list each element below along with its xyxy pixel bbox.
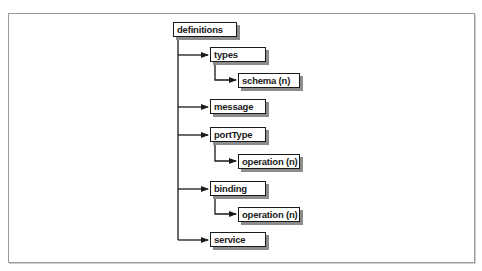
node-porttype-operation: operation (n) (238, 154, 300, 169)
arrow-porttype-operation (215, 143, 236, 161)
node-types: types (210, 47, 266, 62)
node-binding: binding (210, 181, 266, 196)
node-service: service (210, 232, 266, 247)
arrow-schema (215, 62, 236, 80)
node-porttype: portType (210, 127, 266, 142)
node-binding-operation: operation (n) (238, 207, 300, 222)
node-schema: schema (n) (238, 73, 300, 88)
arrow-binding-operation (215, 197, 236, 214)
node-definitions: definitions (173, 22, 237, 37)
node-message: message (210, 99, 266, 114)
